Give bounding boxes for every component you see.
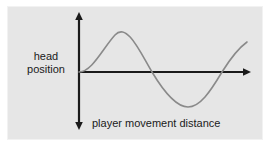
vertical-axis-up-arrow-icon — [75, 12, 83, 20]
y-axis-label-line-2: position — [18, 63, 74, 76]
sine-wave-curve — [79, 32, 247, 107]
y-axis-label: head position — [18, 50, 74, 76]
horizontal-axis-right-arrow-icon — [243, 68, 251, 76]
diagram-figure: head position player movement distance — [0, 0, 271, 148]
vertical-axis-down-arrow-icon — [75, 122, 83, 130]
y-axis-label-line-1: head — [18, 50, 74, 63]
x-axis-label: player movement distance — [92, 117, 220, 130]
